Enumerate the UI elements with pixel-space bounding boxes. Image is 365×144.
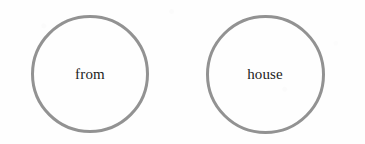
word-circle-house[interactable]: house <box>206 15 325 134</box>
word-circle-from[interactable]: from <box>31 15 149 133</box>
word-circle-worksheet: from house <box>0 0 365 144</box>
word-circle-label-from: from <box>75 67 105 82</box>
word-circle-label-house: house <box>247 67 283 82</box>
